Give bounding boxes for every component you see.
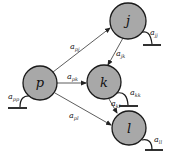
- loop-label-jj: ajj: [150, 28, 158, 39]
- node-label-p: p: [36, 75, 45, 90]
- edge-label-pl: apl: [69, 111, 79, 122]
- edge-label-pj: apj: [70, 42, 80, 53]
- edge-label-kl: akl: [111, 99, 121, 109]
- loop-label-pp: app: [8, 92, 20, 103]
- node-j: j: [110, 3, 146, 39]
- node-k: k: [87, 65, 121, 99]
- loop-label-ll: all: [154, 135, 162, 145]
- node-label-l: l: [127, 121, 131, 136]
- edge-label-pk: apk: [67, 72, 78, 83]
- node-l: l: [112, 111, 146, 145]
- graph-canvas: j p k l apj apk apl ajk akl ajj app akk …: [0, 0, 169, 151]
- node-label-k: k: [100, 75, 108, 90]
- node-p: p: [23, 66, 57, 100]
- loop-label-kk: akk: [130, 88, 141, 98]
- edge-label-jk: ajk: [116, 49, 125, 60]
